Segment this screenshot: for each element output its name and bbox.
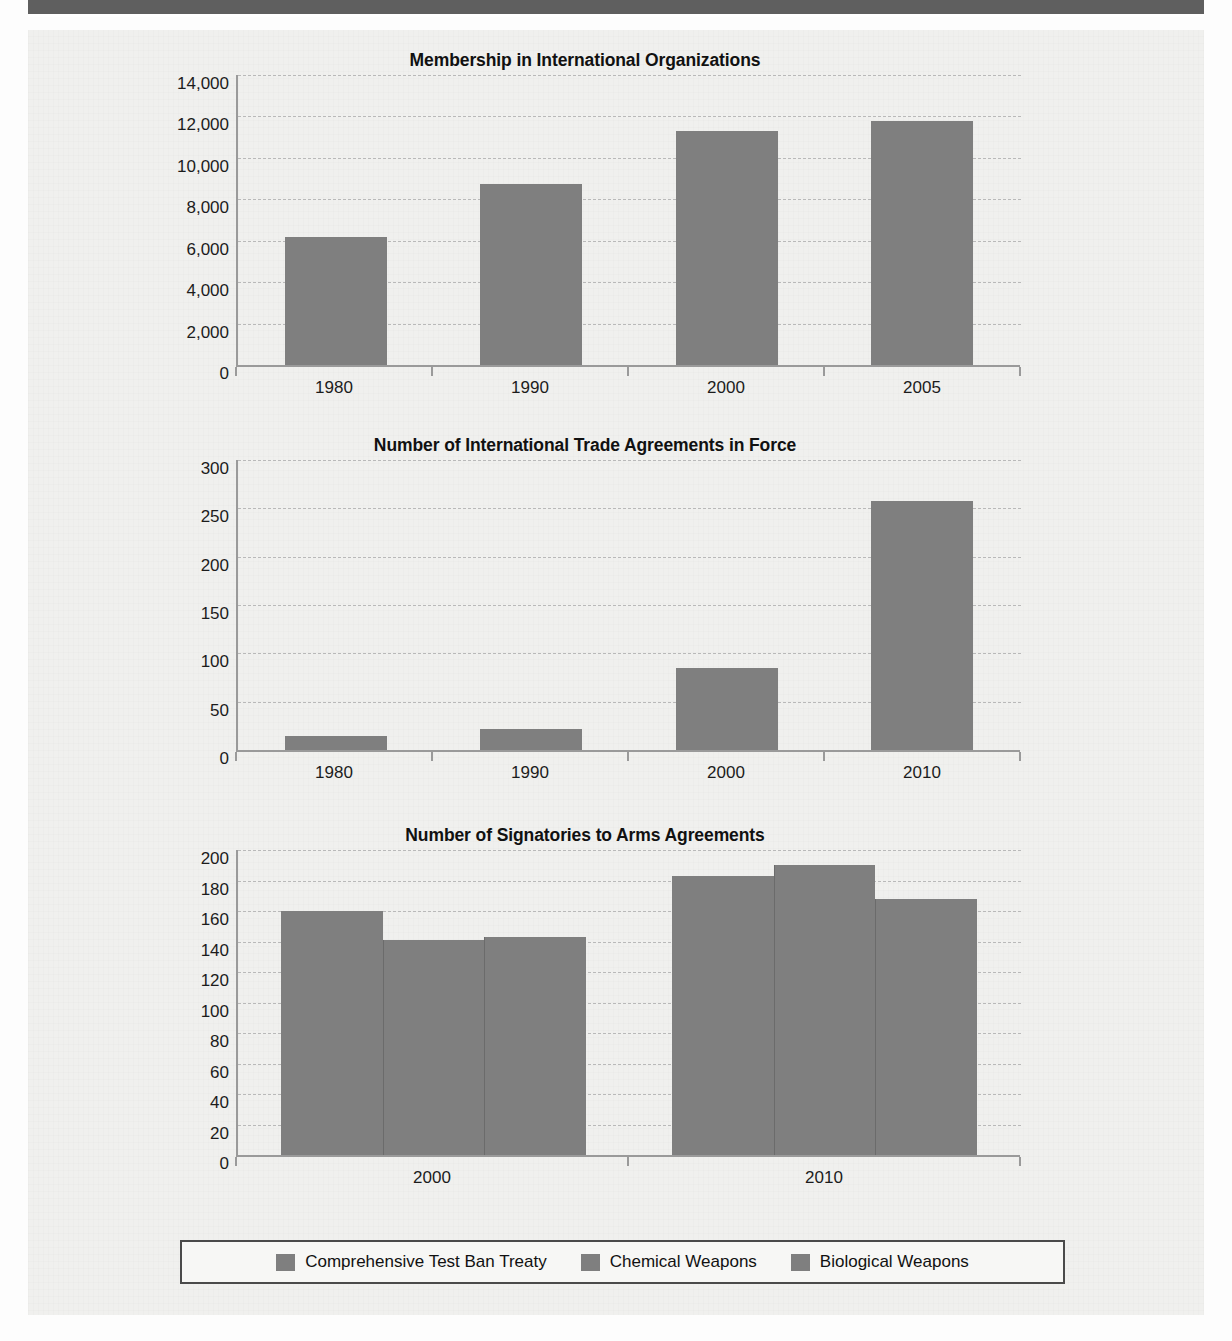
chart-title: Number of International Trade Agreements… <box>150 435 1020 456</box>
legend-item: Biological Weapons <box>791 1252 969 1272</box>
scanned-page: Membership in International Organization… <box>0 0 1232 1341</box>
x-axis-tick-label: 1990 <box>432 763 628 783</box>
legend-swatch-icon <box>581 1254 600 1271</box>
bar <box>285 237 387 365</box>
bar <box>871 501 973 750</box>
bar-slot <box>629 75 825 365</box>
x-axis-tick <box>431 752 433 761</box>
x-axis-tick <box>823 367 825 376</box>
chart-international-trade-agreements: Number of International Trade Agreements… <box>150 435 1020 783</box>
chart-legend: Comprehensive Test Ban TreatyChemical We… <box>180 1240 1065 1284</box>
x-axis-tick-label: 1980 <box>236 763 432 783</box>
bar <box>672 876 774 1155</box>
bar-slot <box>629 460 825 750</box>
legend-label: Biological Weapons <box>820 1252 969 1272</box>
x-axis-tick <box>235 367 237 376</box>
bar-slot <box>434 75 630 365</box>
legend-swatch-icon <box>791 1254 810 1271</box>
chart-signatories-arms-agreements: Number of Signatories to Arms Agreements… <box>150 825 1020 1188</box>
legend-swatch-icon <box>276 1254 295 1271</box>
y-axis-labels: 14,00012,00010,0008,0006,0004,0002,0000 <box>150 75 236 365</box>
legend-item: Chemical Weapons <box>581 1252 757 1272</box>
x-axis-tick <box>627 1157 629 1166</box>
x-axis-tick <box>1019 1157 1021 1166</box>
bar-slot <box>238 75 434 365</box>
bar <box>676 668 778 750</box>
bar <box>480 184 582 365</box>
bar <box>774 865 876 1155</box>
bar-series <box>238 460 1020 750</box>
bar-group <box>281 850 586 1155</box>
bar-group <box>672 850 977 1155</box>
x-axis-tick <box>235 1157 237 1166</box>
page-top-bar-highlight <box>28 14 1204 17</box>
x-axis-tick <box>235 752 237 761</box>
x-axis-ticks <box>236 367 1020 378</box>
plot-area <box>236 460 1020 752</box>
x-axis-labels: 1980199020002010 <box>236 763 1020 783</box>
bar <box>676 131 778 365</box>
x-axis-tick-label: 1980 <box>236 378 432 398</box>
y-axis-labels: 300250200150100500 <box>150 460 236 750</box>
x-axis-tick <box>627 752 629 761</box>
x-axis-tick <box>1019 367 1021 376</box>
x-axis-tick-label: 2005 <box>824 378 1020 398</box>
legend-label: Comprehensive Test Ban Treaty <box>305 1252 547 1272</box>
x-axis-tick-label: 2010 <box>824 763 1020 783</box>
x-axis-tick <box>823 752 825 761</box>
bar-series <box>238 75 1020 365</box>
x-axis-labels: 1980199020002005 <box>236 378 1020 398</box>
x-axis-tick-label: 1990 <box>432 378 628 398</box>
bar-slot <box>238 460 434 750</box>
x-axis-ticks <box>236 752 1020 763</box>
bar-slot <box>825 75 1021 365</box>
plot-row: 14,00012,00010,0008,0006,0004,0002,0000 <box>150 75 1020 367</box>
plot-row: 300250200150100500 <box>150 460 1020 752</box>
x-axis-ticks <box>236 1157 1020 1168</box>
plot-row: 200180160140120100806040200 <box>150 850 1020 1157</box>
bar <box>480 729 582 750</box>
plot-area <box>236 850 1020 1157</box>
bar <box>871 121 973 365</box>
bar <box>875 899 977 1155</box>
x-axis-tick-label: 2000 <box>628 378 824 398</box>
x-axis-tick <box>1019 752 1021 761</box>
x-axis-tick-label: 2000 <box>628 763 824 783</box>
x-axis-labels: 20002010 <box>236 1168 1020 1188</box>
bar <box>285 736 387 751</box>
plot-area <box>236 75 1020 367</box>
chart-title: Number of Signatories to Arms Agreements <box>150 825 1020 846</box>
bar <box>281 911 383 1155</box>
page-top-bar <box>28 0 1204 14</box>
chart-membership-international-organizations: Membership in International Organization… <box>150 50 1020 398</box>
x-axis-tick-label: 2010 <box>628 1168 1020 1188</box>
y-axis-labels: 200180160140120100806040200 <box>150 850 236 1155</box>
bar-slot <box>238 850 629 1155</box>
bar <box>484 937 586 1155</box>
bar-slot <box>825 460 1021 750</box>
x-axis-tick <box>627 367 629 376</box>
bar-slot <box>434 460 630 750</box>
legend-item: Comprehensive Test Ban Treaty <box>276 1252 547 1272</box>
bar-series <box>238 850 1020 1155</box>
bar-slot <box>629 850 1020 1155</box>
x-axis-tick-label: 2000 <box>236 1168 628 1188</box>
legend-label: Chemical Weapons <box>610 1252 757 1272</box>
bar <box>383 940 485 1155</box>
x-axis-tick <box>431 367 433 376</box>
chart-title: Membership in International Organization… <box>150 50 1020 71</box>
